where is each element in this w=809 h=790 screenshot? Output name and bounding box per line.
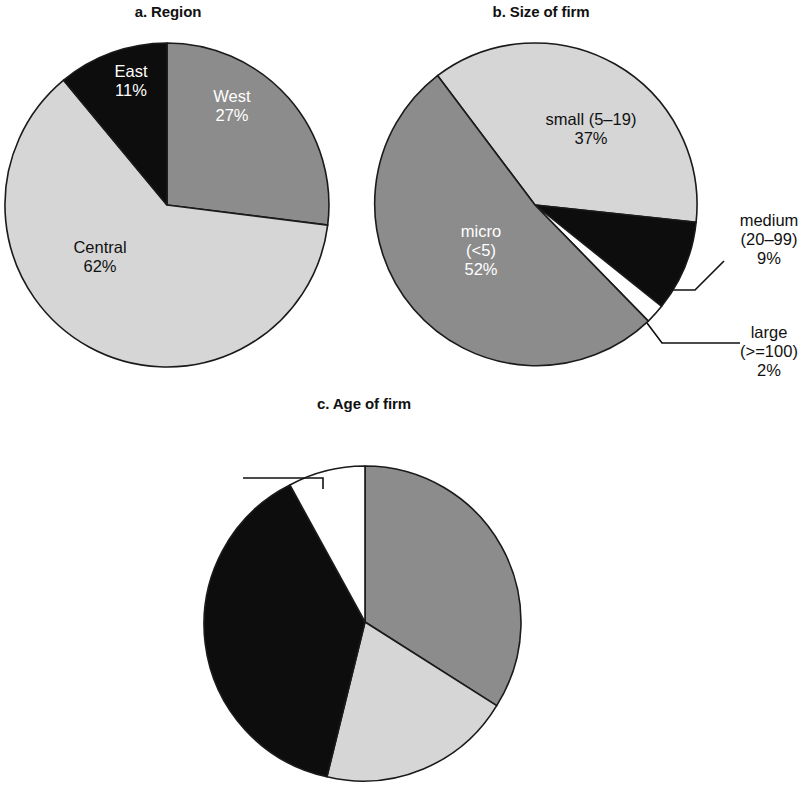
pie-label-large-name: large (726, 323, 809, 342)
pie-label-large: large (>=100) 2% (726, 323, 809, 380)
pie-label-medium-sub: (20–99) (726, 230, 809, 249)
chart-panel-age: c. Age of firm <5 yrs 34% 5–9 yrs 20% 10… (0, 392, 809, 790)
pie-slice-west[interactable] (167, 43, 329, 225)
chart-title-age: c. Age of firm (194, 395, 534, 412)
pie-label-medium-value: 9% (726, 249, 809, 268)
pie-label-large-sub: (>=100) (726, 342, 809, 361)
pie-label-medium-name: medium (726, 211, 809, 230)
pie-region (0, 18, 340, 368)
chart-panel-region: a. Region West 27% Central 62% East 11% (0, 0, 404, 390)
pie-label-medium: medium (20–99) 9% (726, 211, 809, 268)
pie-age (110, 418, 670, 788)
pie-label-large-value: 2% (726, 361, 809, 380)
chart-panel-size: b. Size of firm small (5–19) 37% micro (… (404, 0, 809, 390)
